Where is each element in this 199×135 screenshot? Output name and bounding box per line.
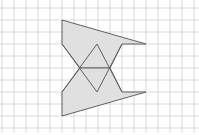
- grid-figure: [0, 0, 199, 135]
